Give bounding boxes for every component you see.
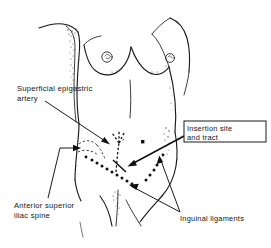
label-superficial-epigastric-artery: Superficial epigastric artery xyxy=(17,84,93,103)
label-epigastric-line2: artery xyxy=(17,94,93,104)
left-breast-upper-slope xyxy=(84,36,101,45)
label-asis-line2: iliac spine xyxy=(14,211,74,221)
label-anterior-superior-iliac-spine: Anterior superior iliac spine xyxy=(14,201,74,220)
left-breast-contour xyxy=(84,45,131,75)
leader-asis xyxy=(48,145,81,198)
right-thigh-line xyxy=(140,196,162,222)
right-nipple xyxy=(168,56,172,58)
leader-inguinal-left xyxy=(129,184,180,212)
left-nipple xyxy=(105,55,110,59)
anatomical-figure: Superficial epigastric artery Anterior s… xyxy=(0,0,271,248)
abdomen-midline-shadow xyxy=(130,80,131,118)
leader-insertion-site xyxy=(128,136,185,166)
label-inguinal-ligaments: Inguinal ligaments xyxy=(180,214,244,224)
right-thigh-inner xyxy=(126,200,141,226)
insertion-tract-stroke xyxy=(113,160,126,172)
superficial-epigastric-artery-path xyxy=(112,131,124,172)
right-breast-upper-slope xyxy=(152,34,169,67)
left-hip-outline xyxy=(75,180,81,201)
left-hip-guide-dashes xyxy=(78,141,105,159)
label-inguinal-line1: Inguinal ligaments xyxy=(180,214,244,224)
inguinal-ligament-left-dots xyxy=(85,156,134,186)
label-insertion-line1: Insertion site xyxy=(187,124,232,133)
left-nipple-areola xyxy=(102,52,112,62)
left-arm-outer-contour xyxy=(66,26,76,122)
left-thigh-line xyxy=(100,196,112,226)
label-epigastric-line1: Superficial epigastric xyxy=(17,84,93,94)
right-arm-lower xyxy=(184,72,189,95)
shading-stipple xyxy=(67,29,173,217)
label-insertion-line2: and tract xyxy=(187,133,232,142)
label-asis-line1: Anterior superior xyxy=(14,201,74,211)
left-arm-inner-edge xyxy=(77,32,80,124)
right-shoulder-outline xyxy=(170,18,190,72)
upper-chest-line xyxy=(152,18,170,34)
right-torso-flank xyxy=(169,67,176,132)
label-insertion-site-and-tract: Insertion site and tract xyxy=(187,124,232,142)
lower-stray-mark xyxy=(80,222,83,237)
pubic-midline xyxy=(116,190,118,226)
inguinal-ligament-right-dots xyxy=(145,154,165,182)
umbilicus-marker xyxy=(141,140,144,143)
right-nipple-areola xyxy=(166,54,175,63)
